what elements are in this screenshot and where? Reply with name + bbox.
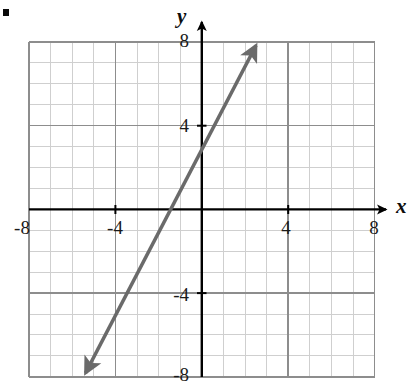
x-axis-tick-label-neg-4: -4: [97, 218, 133, 237]
y-axis-tick-label-4: 4: [163, 116, 189, 135]
y-axis-tick-label-neg-4: -4: [155, 285, 189, 304]
graph-figure: 8 4 -4 -8 -8 -4 4 8 y x: [0, 0, 419, 389]
x-axis-tick-label-4: 4: [270, 218, 302, 237]
x-axis-name-label: x: [396, 196, 407, 217]
axis-lines: [29, 22, 386, 377]
coordinate-plane-canvas: [0, 0, 419, 389]
y-axis-tick-label-8: 8: [163, 31, 189, 50]
y-axis-name-label: y: [177, 6, 186, 27]
x-axis-tick-label-8: 8: [358, 218, 390, 237]
y-axis-tick-label-neg-8: -8: [155, 365, 189, 384]
x-axis-tick-label-neg-8: -8: [4, 218, 40, 237]
